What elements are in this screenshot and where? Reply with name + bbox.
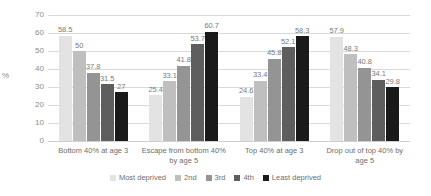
bar[interactable] bbox=[240, 97, 253, 141]
bar-column: 34.1 bbox=[372, 15, 385, 141]
y-axis-tick-label: 10 bbox=[4, 119, 44, 127]
legend-item[interactable]: Least deprived bbox=[263, 174, 321, 182]
x-axis-category-label: Escape from bottom 40%by age 5 bbox=[139, 146, 230, 166]
bar-group: 57.948.340.834.129.8 bbox=[320, 15, 411, 141]
x-axis-category-label-line: Bottom 40% at age 3 bbox=[48, 146, 139, 156]
bar-value-label: 60.7 bbox=[204, 22, 219, 30]
bar-value-label: 50 bbox=[75, 42, 83, 50]
legend-swatch-icon bbox=[175, 175, 181, 181]
bar[interactable] bbox=[344, 54, 357, 141]
bar[interactable] bbox=[268, 59, 281, 141]
legend-swatch-icon bbox=[263, 175, 269, 181]
legend-item[interactable]: 4th bbox=[234, 174, 253, 182]
y-axis-tick-label: 40 bbox=[4, 65, 44, 73]
bar[interactable] bbox=[386, 87, 399, 141]
bar-value-label: 57.9 bbox=[329, 27, 344, 35]
bar-value-label: 53.7 bbox=[190, 35, 205, 43]
bar-column: 50 bbox=[73, 15, 86, 141]
legend-item[interactable]: Most deprived bbox=[110, 174, 166, 182]
bar-group: 25.433.141.853.760.7 bbox=[139, 15, 230, 141]
legend-item[interactable]: 2nd bbox=[175, 174, 197, 182]
x-axis-category-label-line: Escape from bottom 40% bbox=[139, 146, 230, 156]
bar[interactable] bbox=[358, 68, 371, 141]
bar-column: 58.3 bbox=[296, 15, 309, 141]
bar-value-label: 45.8 bbox=[267, 49, 282, 57]
x-axis-category-label: Top 40% at age 3 bbox=[229, 146, 320, 156]
bar-column: 57.9 bbox=[330, 15, 343, 141]
bar-group: 24.633.445.852.158.3 bbox=[229, 15, 320, 141]
legend-label: 2nd bbox=[184, 174, 197, 182]
bar[interactable] bbox=[191, 44, 204, 141]
bar[interactable] bbox=[163, 81, 176, 141]
bar[interactable] bbox=[205, 32, 218, 141]
bar-column: 60.7 bbox=[205, 15, 218, 141]
bar-value-label: 33.4 bbox=[253, 71, 268, 79]
bar-column: 33.1 bbox=[163, 15, 176, 141]
bar-value-label: 34.1 bbox=[371, 70, 386, 78]
y-axis-tick-label: 30 bbox=[4, 83, 44, 91]
bar-value-label: 52.1 bbox=[281, 38, 296, 46]
y-axis-tick-label: 0 bbox=[4, 137, 44, 145]
bar[interactable] bbox=[330, 37, 343, 141]
bar[interactable] bbox=[73, 51, 86, 141]
x-axis-category-label: Drop out of top 40% byage 5 bbox=[320, 146, 411, 166]
bar-column: 31.5 bbox=[101, 15, 114, 141]
bar-column: 40.8 bbox=[358, 15, 371, 141]
bar[interactable] bbox=[372, 80, 385, 141]
bar[interactable] bbox=[296, 36, 309, 141]
legend-item[interactable]: 3rd bbox=[206, 174, 226, 182]
bar-column: 29.8 bbox=[386, 15, 399, 141]
bar-value-label: 58.5 bbox=[58, 26, 73, 34]
bar-value-label: 29.8 bbox=[385, 78, 400, 86]
legend-swatch-icon bbox=[234, 175, 240, 181]
y-axis-tick-label: 50 bbox=[4, 47, 44, 55]
bar-group-bars: 57.948.340.834.129.8 bbox=[320, 15, 411, 141]
chart-legend: Most deprived2nd3rd4thLeast deprived bbox=[0, 174, 431, 182]
legend-swatch-icon bbox=[110, 175, 116, 181]
bar-column: 37.8 bbox=[87, 15, 100, 141]
bar-column: 25.4 bbox=[149, 15, 162, 141]
bar-value-label: 37.8 bbox=[86, 63, 101, 71]
bar-column: 52.1 bbox=[282, 15, 295, 141]
bar-column: 27 bbox=[115, 15, 128, 141]
x-axis-category-label-line: Drop out of top 40% by bbox=[320, 146, 411, 156]
y-axis-tick-label: 70 bbox=[4, 11, 44, 19]
bar-column: 48.3 bbox=[344, 15, 357, 141]
legend-label: Most deprived bbox=[119, 174, 166, 182]
bar-value-label: 40.8 bbox=[357, 58, 372, 66]
bar-value-label: 58.3 bbox=[295, 27, 310, 35]
bar[interactable] bbox=[254, 81, 267, 141]
bar-value-label: 41.8 bbox=[176, 56, 191, 64]
bar[interactable] bbox=[59, 36, 72, 141]
bar[interactable] bbox=[87, 73, 100, 141]
bar-value-label: 25.4 bbox=[148, 86, 163, 94]
legend-label: 4th bbox=[243, 174, 253, 182]
bar-column: 24.6 bbox=[240, 15, 253, 141]
y-axis-tick-label: 20 bbox=[4, 101, 44, 109]
bar-group: 58.55037.831.527 bbox=[48, 15, 139, 141]
gridline bbox=[48, 141, 410, 142]
bar[interactable] bbox=[115, 92, 128, 141]
legend-label: Least deprived bbox=[272, 174, 321, 182]
bar[interactable] bbox=[101, 84, 114, 141]
bar-column: 41.8 bbox=[177, 15, 190, 141]
bar[interactable] bbox=[149, 95, 162, 141]
y-axis-tick-label: 60 bbox=[4, 29, 44, 37]
bar-column: 58.5 bbox=[59, 15, 72, 141]
x-axis-category-labels: Bottom 40% at age 3Escape from bottom 40… bbox=[48, 146, 410, 172]
bar-value-label: 48.3 bbox=[343, 45, 358, 53]
bar-column: 45.8 bbox=[268, 15, 281, 141]
bar-group-bars: 25.433.141.853.760.7 bbox=[139, 15, 230, 141]
legend-label: 3rd bbox=[215, 174, 226, 182]
x-axis-category-label-line: by age 5 bbox=[139, 156, 230, 166]
x-axis-category-label: Bottom 40% at age 3 bbox=[48, 146, 139, 156]
bar-value-label: 31.5 bbox=[100, 75, 115, 83]
bar-chart: % 010203040506070 58.55037.831.52725.433… bbox=[0, 0, 431, 196]
x-axis-category-label-line: Top 40% at age 3 bbox=[229, 146, 320, 156]
legend-swatch-icon bbox=[206, 175, 212, 181]
bar-value-label: 27 bbox=[117, 83, 125, 91]
bar-group-bars: 58.55037.831.527 bbox=[48, 15, 139, 141]
bar[interactable] bbox=[177, 66, 190, 141]
y-axis: 010203040506070 bbox=[0, 15, 44, 141]
bar[interactable] bbox=[282, 47, 295, 141]
